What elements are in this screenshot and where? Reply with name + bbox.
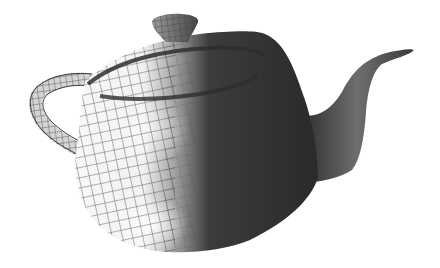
teapot-render — [0, 0, 440, 268]
teapot-illustration — [0, 0, 440, 268]
teapot-body — [70, 30, 318, 260]
